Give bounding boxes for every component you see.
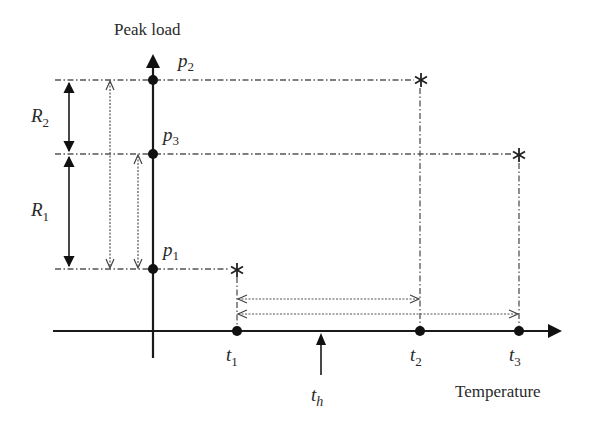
label-p2: p2 bbox=[176, 50, 194, 74]
point-t1 bbox=[232, 326, 242, 336]
label-th: th bbox=[311, 384, 323, 409]
span-t1-t3-right-head-icon bbox=[509, 310, 518, 318]
th-arrowhead-icon bbox=[316, 333, 326, 345]
peak-marker-star-icon-1 bbox=[231, 263, 243, 277]
point-t2 bbox=[415, 326, 425, 336]
span-p1-p3-bottom-head-icon bbox=[134, 259, 142, 268]
point-t3 bbox=[514, 326, 524, 336]
label-r2: R2 bbox=[30, 105, 49, 130]
peak-marker-star-icon-3 bbox=[513, 148, 525, 162]
point-p3 bbox=[148, 149, 158, 159]
label-r1: R1 bbox=[30, 199, 49, 224]
label-t1: t1 bbox=[226, 344, 238, 369]
y-axis-arrowhead-icon bbox=[146, 54, 160, 68]
label-t3: t3 bbox=[509, 344, 521, 369]
label-p3: p3 bbox=[161, 124, 179, 148]
point-p2 bbox=[148, 75, 158, 85]
y-axis-label: Peak load bbox=[114, 20, 181, 39]
span-p1-p2-bottom-head-icon bbox=[106, 259, 114, 268]
x-axis-arrowhead-icon bbox=[548, 324, 562, 338]
peak-marker-star-icon-2 bbox=[415, 73, 427, 87]
point-p1 bbox=[148, 264, 158, 274]
x-axis-label: Temperature bbox=[455, 382, 541, 401]
label-p1: p1 bbox=[161, 239, 179, 263]
label-t2: t2 bbox=[410, 344, 422, 369]
peak-load-temperature-diagram: Peak load Temperature p2 p3 p1 R2 R1 t1 … bbox=[0, 0, 592, 429]
